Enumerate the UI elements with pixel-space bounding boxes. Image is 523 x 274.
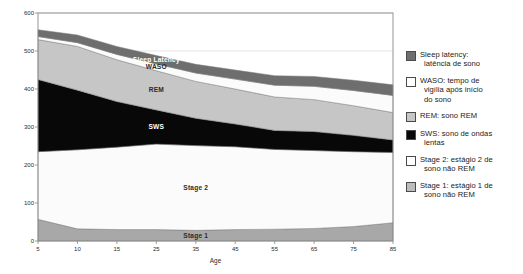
x-tick-label: 85 (390, 246, 397, 252)
x-tick-label: 5 (36, 246, 39, 252)
y-tick-label: 100 (12, 200, 34, 206)
legend-item[interactable]: WASO: tempo devigília após iníciodo sono (406, 76, 523, 104)
series-label-stage-2: Stage 2 (183, 184, 208, 191)
legend-label-line2: latência de sono (420, 59, 480, 68)
series-label-rem: REM (149, 86, 164, 93)
legend-label-line2: sono não REM (420, 190, 493, 199)
series-label-sws: SWS (149, 123, 165, 130)
y-tick-label: 300 (12, 124, 34, 130)
legend-label-line1: REM: sono REM (420, 111, 477, 120)
y-tick-label: 200 (12, 162, 34, 168)
legend-swatch-icon (406, 112, 416, 122)
series-label-waso: WASO (146, 63, 167, 70)
series-label-sleep-latency: Sleep Latency (133, 56, 180, 63)
x-tick-label: 35 (192, 246, 199, 252)
legend-item[interactable]: Sleep latency:latência de sono (406, 50, 523, 69)
x-tick-label: 45 (232, 246, 239, 252)
legend-swatch-icon (406, 130, 416, 140)
sleep-architecture-chart: 0100200300400500600 5101525354555657585 … (0, 0, 523, 274)
y-tick-label: 500 (12, 48, 34, 54)
legend-item[interactable]: Stage 2: estágio 2 desono não REM (406, 155, 523, 174)
legend-label-line2: vigília após início (420, 85, 483, 94)
x-tick-label: 75 (350, 246, 357, 252)
y-tick-label: 600 (12, 10, 34, 16)
legend-label: Sleep latency:latência de sono (420, 50, 480, 69)
legend-label: Stage 1: estágio 1 desono não REM (420, 181, 493, 200)
legend-item[interactable]: REM: sono REM (406, 111, 523, 122)
legend-swatch-icon (406, 77, 416, 87)
legend-label-line1: Stage 1: estágio 1 de (420, 181, 493, 190)
y-tick-label: 400 (12, 86, 34, 92)
legend-label: SWS: sono de ondaslentas (420, 129, 492, 148)
legend-label-line2: sono não REM (420, 164, 493, 173)
legend-label-line1: WASO: tempo de (420, 76, 480, 85)
legend-label-line1: SWS: sono de ondas (420, 129, 492, 138)
legend-label: Stage 2: estágio 2 desono não REM (420, 155, 493, 174)
legend-label-line3: do sono (420, 95, 483, 104)
legend-label-line1: Sleep latency: (420, 50, 468, 59)
x-tick-label: 25 (153, 246, 160, 252)
x-tick-label: 65 (311, 246, 318, 252)
series-label-stage-1: Stage 1 (183, 232, 208, 239)
legend-swatch-icon (406, 51, 416, 61)
legend-label-line2: lentas (420, 138, 492, 147)
legend-swatch-icon (406, 182, 416, 192)
legend-swatch-icon (406, 156, 416, 166)
x-tick-label: 55 (271, 246, 278, 252)
legend-item[interactable]: SWS: sono de ondaslentas (406, 129, 523, 148)
x-axis-title: Age (210, 257, 221, 264)
x-tick-label: 15 (114, 246, 121, 252)
y-tick-label: 0 (12, 238, 34, 244)
legend-label-line1: Stage 2: estágio 2 de (420, 155, 493, 164)
legend-item[interactable]: Stage 1: estágio 1 desono não REM (406, 181, 523, 200)
chart-legend: Sleep latency:latência de sonoWASO: temp… (406, 50, 523, 206)
x-tick-label: 10 (74, 246, 81, 252)
legend-label: WASO: tempo devigília após iníciodo sono (420, 76, 483, 104)
legend-label: REM: sono REM (420, 111, 477, 120)
